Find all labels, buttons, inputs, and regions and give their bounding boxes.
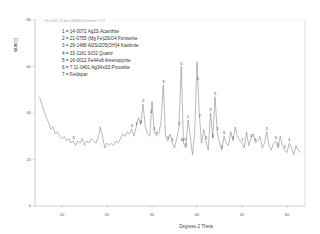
peak-label: 1 [221,144,224,149]
y-axis-title: Counts [13,38,18,53]
peak-label: 1 [266,126,269,131]
y-tick-label: 60 [27,64,32,69]
x-tick-label: 20 [105,212,110,217]
xrd-chart: File: 4-0122_01 Date: 2008/08/26 Comment… [0,0,320,234]
legend-entry: 5 = 16-0012 Fe4As6 Arsenopyrite [62,58,131,63]
y-tick-label: 80 [27,17,32,22]
y-tick-label: 40 [27,110,32,115]
peak-label: 3 [162,79,165,84]
legend-entry: 7 = Feldspar [62,72,88,77]
legend-entry: 3 = 29-1488 Al2Si2O5(OH)4 Kaolinite [62,43,139,48]
peak-label: 4 [140,119,143,124]
x-tick-label: 40 [195,212,200,217]
peak-label: 5 [180,61,183,66]
peak-label: 5 [275,135,278,140]
peak-label: 5 [185,142,188,147]
peak-label: 1 [212,133,215,138]
peak-label: 3 [131,123,134,128]
y-axis: 020406080 [27,17,36,208]
peak-label: 2 [178,121,181,126]
x-tick-label: 10 [60,212,65,217]
peak-label: 3 [72,135,75,140]
x-tick-label: 60 [285,212,290,217]
legend: 1 = 14-0072 Ag2S Acanthite2 = 21-0755 (M… [62,29,139,77]
peak-label: 1 [232,135,235,140]
x-axis-title: Degrees 2 Theta [179,224,213,229]
x-axis: 102030405060 [35,205,305,217]
peak-label: 2 [205,135,208,140]
y-tick-label: 0 [29,203,32,208]
peak-label: 1 [197,76,200,81]
y-tick-label: 20 [27,157,32,162]
peak-label: 5 [214,91,217,96]
peak-label: 1 [288,137,291,142]
legend-entry: 2 = 21-0755 (Mg,Fe)2SiO4 Forsterite [62,36,138,41]
peak-label: 1 [216,126,219,131]
peak-label: 1 [284,144,287,149]
legend-entry: 6 = ? 11-0401 Ag3AsS3 Proustite [62,65,130,70]
x-tick-label: 30 [150,212,155,217]
peak-label: 1 [241,137,244,142]
peak-label: 1 [171,137,174,142]
legend-entry: 4 = 33-1161 SiO2 Quartz [62,51,114,56]
x-tick-label: 50 [240,212,245,217]
peak-label: 2 [209,107,212,112]
header-text: File: 4-0122_01 Date: 2008/08/26 Comment… [45,19,106,23]
peak-label: 1 [277,142,280,147]
peak-label: 7 [199,113,202,118]
peak-label: 1 [187,114,190,119]
peak-label: 5 [223,130,226,135]
peak-label: 2 [142,98,145,103]
legend-entry: 1 = 14-0072 Ag2S Acanthite [62,29,120,34]
chart-header: File: 4-0122_01 Date: 2008/08/26 Comment… [45,19,106,23]
